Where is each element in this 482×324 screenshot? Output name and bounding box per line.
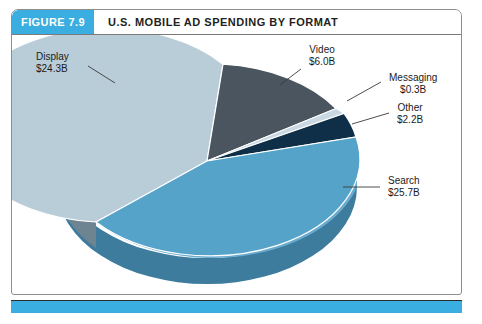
leader-line-other (352, 113, 389, 124)
pie-label-messaging: Messaging $0.3B (389, 72, 437, 95)
pie-label-search-name: Search (388, 175, 420, 186)
pie-label-other-name: Other (398, 102, 423, 113)
leader-line-messaging (347, 82, 381, 101)
figure-frame: FIGURE 7.9 U.S. MOBILE AD SPENDING BY FO… (11, 9, 462, 295)
pie-label-display: Display $24.3B (36, 51, 69, 74)
pie-label-other-value: $2.2B (397, 114, 423, 125)
figure-number-badge: FIGURE 7.9 (12, 10, 94, 34)
pie-label-other: Other $2.2B (397, 102, 423, 125)
pie-label-display-name: Display (36, 51, 69, 62)
figure-header: FIGURE 7.9 U.S. MOBILE AD SPENDING BY FO… (12, 10, 461, 35)
pie-label-search: Search $25.7B (388, 175, 420, 198)
pie-label-video-value: $6.0B (309, 56, 335, 67)
figure-accent-bar (11, 301, 462, 313)
figure-title: U.S. MOBILE AD SPENDING BY FORMAT (108, 10, 338, 34)
pie-label-search-value: $25.7B (388, 187, 420, 198)
pie-label-messaging-name: Messaging (389, 72, 437, 83)
pie-label-video: Video $6.0B (309, 44, 335, 67)
pie-label-display-value: $24.3B (36, 63, 68, 74)
pie-label-messaging-value: $0.3B (400, 84, 426, 95)
pie-label-video-name: Video (309, 44, 334, 55)
pie-chart: Display $24.3B Video $6.0B Messaging $0.… (12, 35, 461, 295)
